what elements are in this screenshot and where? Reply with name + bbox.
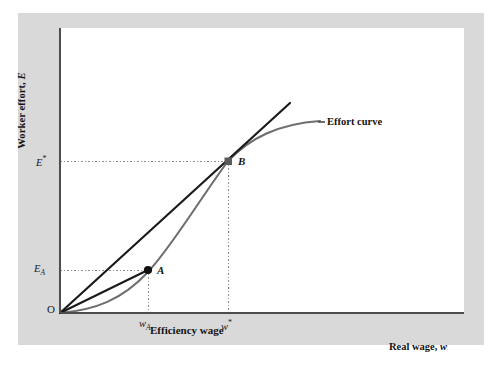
x-tick-label-w-star: w* (221, 318, 232, 332)
x-tick-w-star-main: w (221, 321, 228, 332)
point-b-label: B (238, 155, 245, 167)
point-a-marker (144, 266, 152, 274)
effort-curve-label: Effort curve (327, 117, 382, 128)
ray-to-a (60, 269, 150, 313)
x-axis-title: Efficiency wage (150, 325, 224, 336)
y-axis-title-symbol: E (16, 72, 27, 79)
effort-curve (60, 121, 320, 313)
x-tick-w-a-sub: A (146, 323, 151, 332)
x-tick-w-a-main: w (139, 318, 146, 329)
y-axis-title: Worker effort, E (16, 56, 27, 166)
y-tick-label-e-star: E* (36, 154, 46, 168)
real-wage-title-symbol: w (440, 341, 447, 352)
tangent-ray-through-b (60, 103, 290, 313)
real-wage-title-text: Real wage, (389, 341, 440, 352)
y-tick-label-e-a: EA (34, 263, 45, 277)
point-a-label: A (157, 264, 164, 276)
x-tick-label-w-a: wA (139, 318, 151, 332)
y-tick-e-a-sub: A (40, 268, 45, 277)
real-wage-axis-title: Real wage, w (389, 342, 447, 353)
efficiency-wage-figure: Worker effort, E Efficiency wage Real wa… (0, 0, 501, 373)
y-tick-e-star-sup: * (42, 154, 46, 163)
point-b-marker (225, 158, 233, 166)
x-tick-w-star-sup: * (228, 318, 232, 327)
origin-label: O (47, 303, 55, 315)
plot-graphics (0, 0, 501, 373)
y-axis-title-text: Worker effort, (16, 79, 27, 148)
